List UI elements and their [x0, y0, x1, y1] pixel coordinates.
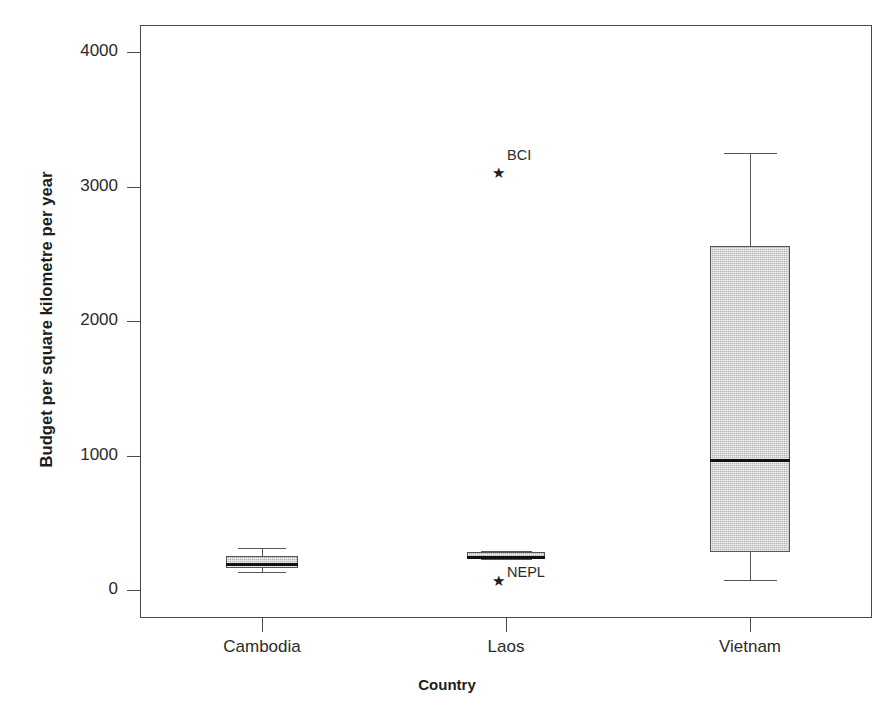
whisker-cap-upper [724, 153, 777, 154]
whisker-upper [750, 153, 751, 246]
whisker-lower [750, 552, 751, 580]
whisker-cap-lower [724, 580, 777, 581]
box-iqr [710, 246, 790, 551]
median-line [710, 459, 790, 462]
boxplot-chart: Budget per square kilometre per year 010… [0, 0, 894, 719]
box-plot-vietnam [0, 0, 894, 719]
